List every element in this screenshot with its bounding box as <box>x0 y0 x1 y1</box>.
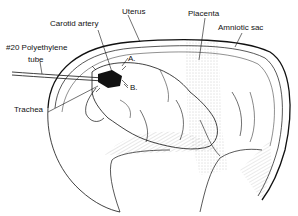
label-polyethylene-tube-line2: tube <box>28 56 44 64</box>
label-amniotic-sac: Amniotic sac <box>218 24 263 32</box>
label-carotid-artery: Carotid artery <box>50 20 98 28</box>
label-trachea: Trachea <box>14 106 43 114</box>
incision-site <box>98 70 122 88</box>
label-point-a: A. <box>128 55 136 63</box>
label-uterus: Uterus <box>122 8 146 16</box>
label-point-b: B. <box>130 84 138 92</box>
diagram-canvas: Uterus Placenta Amniotic sac Carotid art… <box>0 0 298 216</box>
label-placenta: Placenta <box>188 10 219 18</box>
fetus-illustration <box>0 0 298 216</box>
label-polyethylene-tube-line1: #20 Polyethylene <box>6 44 67 52</box>
